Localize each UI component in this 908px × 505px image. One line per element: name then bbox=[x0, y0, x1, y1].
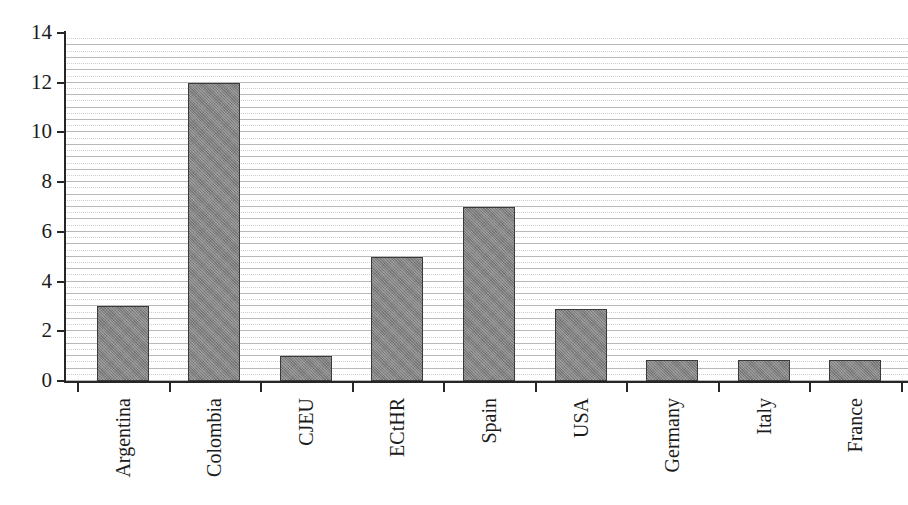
bar bbox=[829, 360, 881, 381]
x-axis-category-label: Spain bbox=[479, 398, 499, 444]
bar bbox=[555, 309, 607, 381]
y-axis-tick-label: 2 bbox=[6, 320, 52, 341]
bar-chart: 02468101214 ArgentinaColombiaCJEUECtHRSp… bbox=[0, 0, 908, 505]
y-axis-tick-mark bbox=[57, 181, 65, 183]
x-axis-tick-mark bbox=[352, 382, 354, 392]
x-axis-tick-mark bbox=[718, 382, 720, 392]
y-axis-tick-mark bbox=[57, 231, 65, 233]
y-axis-tick-mark bbox=[57, 82, 65, 84]
x-axis-tick-mark bbox=[260, 382, 262, 392]
y-axis-tick-mark bbox=[57, 330, 65, 332]
y-axis-tick-label: 14 bbox=[6, 22, 52, 43]
x-axis-tick-mark bbox=[901, 382, 903, 392]
y-axis-tick-label: 12 bbox=[6, 72, 52, 93]
x-axis-category-label: USA bbox=[571, 398, 591, 438]
y-axis-tick-label: 10 bbox=[6, 121, 52, 142]
x-axis-category-label: Colombia bbox=[204, 398, 224, 477]
plot-area bbox=[65, 33, 908, 381]
bar bbox=[280, 356, 332, 381]
y-axis-tick-mark bbox=[57, 131, 65, 133]
x-axis-tick-mark bbox=[77, 382, 79, 392]
x-axis-tick-mark bbox=[809, 382, 811, 392]
y-axis-tick-label: 8 bbox=[6, 171, 52, 192]
x-axis-tick-mark bbox=[535, 382, 537, 392]
bar bbox=[97, 306, 149, 381]
y-axis-tick-mark bbox=[57, 380, 65, 382]
y-axis-tick-label: 4 bbox=[6, 271, 52, 292]
bar bbox=[188, 83, 240, 381]
bar bbox=[371, 257, 423, 381]
x-axis-category-label: Italy bbox=[754, 398, 774, 435]
x-axis-tick-mark bbox=[626, 382, 628, 392]
bar bbox=[463, 207, 515, 381]
x-axis-tick-mark bbox=[443, 382, 445, 392]
y-axis-tick-label: 6 bbox=[6, 221, 52, 242]
x-axis-category-label: France bbox=[845, 398, 865, 452]
y-axis-tick-mark bbox=[57, 32, 65, 34]
x-axis-category-label: ECtHR bbox=[387, 398, 407, 457]
bar bbox=[738, 360, 790, 381]
y-axis-tick-mark bbox=[57, 281, 65, 283]
x-axis-category-label: Argentina bbox=[113, 398, 133, 478]
x-axis-tick-mark bbox=[169, 382, 171, 392]
y-axis-tick-label: 0 bbox=[6, 370, 52, 391]
x-axis-category-label: CJEU bbox=[296, 398, 316, 446]
x-axis-category-label: Germany bbox=[662, 398, 682, 472]
x-axis-line bbox=[64, 381, 908, 383]
bar bbox=[646, 360, 698, 381]
